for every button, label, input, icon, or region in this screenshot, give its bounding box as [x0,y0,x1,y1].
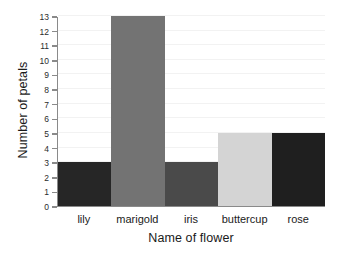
y-axis-tick: 9 [44,69,57,81]
y-axis-tick-label: 13 [40,11,52,23]
y-axis-tick: 11 [40,40,57,52]
y-axis-tick: 7 [44,99,57,111]
x-axis-title: Name of flower [57,231,325,245]
y-axis-tick-label: 5 [44,128,52,140]
y-axis-tick-label: 10 [40,55,52,67]
y-axis-tick: 6 [44,113,57,125]
gridline [58,15,325,16]
y-axis-tick: 4 [44,143,57,155]
y-axis-tick-label: 3 [44,157,52,169]
y-axis-tick: 8 [44,84,57,96]
bar-fill [272,133,325,206]
y-axis-tick-label: 1 [44,186,52,198]
bar-rose[interactable] [272,17,325,206]
x-axis-tick-label-lily: lily [57,209,111,229]
bar-fill [58,162,111,206]
y-axis-tick-label: 0 [44,201,52,213]
y-axis-tick: 5 [44,128,57,140]
y-axis-tick-label: 11 [40,40,52,52]
bar-marigold[interactable] [111,17,164,206]
x-axis-tick-label-buttercup: buttercup [218,209,272,229]
y-axis-tick: 0 [44,201,57,213]
bar-series [58,17,325,206]
bar-chart-figure: Number of petals 012345678910111213 lily… [0,0,350,259]
y-axis-tick: 12 [40,26,57,38]
bar-iris[interactable] [165,17,218,206]
y-axis-tick: 1 [44,186,57,198]
x-axis-tick-label-marigold: marigold [111,209,165,229]
y-axis-tick-label: 9 [44,69,52,81]
x-axis-tick-labels: lilymarigoldirisbuttercuprose [57,209,325,229]
y-axis-tick: 2 [44,172,57,184]
y-axis-tick-label: 4 [44,143,52,155]
bar-fill [218,133,271,206]
y-axis-tick-label: 6 [44,113,52,125]
y-axis-tick: 13 [40,11,57,23]
y-axis-tick-label: 2 [44,172,52,184]
y-axis-tick-label: 12 [40,26,52,38]
y-axis-tick-label: 7 [44,99,52,111]
y-axis-ticks: 012345678910111213 [0,0,57,190]
x-axis-tick-label-iris: iris [164,209,218,229]
bar-fill [165,162,218,206]
bar-fill [111,16,164,206]
bar-buttercup[interactable] [218,17,271,206]
y-axis-tick: 10 [40,55,57,67]
x-axis-tick-label-rose: rose [271,209,325,229]
plot-area [57,17,325,207]
y-axis-tick: 3 [44,157,57,169]
bar-lily[interactable] [58,17,111,206]
y-axis-tick-label: 8 [44,84,52,96]
